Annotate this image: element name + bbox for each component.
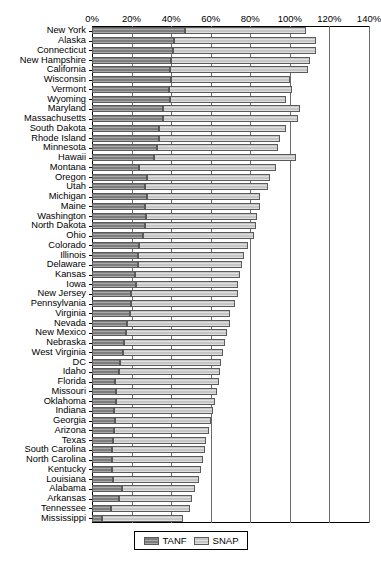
bar-segment-snap [170,96,286,103]
bar-segment-tanf [92,359,120,366]
bar-segment-snap [131,290,239,297]
bar-segment-tanf [92,427,114,434]
bar-segment-tanf [92,232,143,239]
bar-segment-tanf [92,174,147,181]
bar-segment-snap [113,437,206,444]
legend-label-snap: SNAP [213,536,239,546]
bar-segment-tanf [92,96,170,103]
bar-segment-snap [138,261,243,268]
bar-segment-tanf [92,222,145,229]
legend-entry-tanf: TANF [144,536,187,546]
y-tick-label: Maine [61,202,86,212]
bar-segment-snap [163,115,298,122]
legend-swatch-snap [194,537,209,545]
x-tick-label: 60% [201,13,220,25]
bar-segment-tanf [92,329,126,336]
bar-segment-tanf [92,320,127,327]
bar-segment-snap [170,66,308,73]
bar-segment-snap [139,164,276,171]
bar-segment-tanf [92,105,163,112]
bar-segment-tanf [92,213,146,220]
bar-segment-snap [163,105,300,112]
gridline [369,26,370,523]
bar-segment-tanf [92,47,173,54]
bar-segment-tanf [92,271,135,278]
bar-segment-tanf [92,378,115,385]
bar-segment-snap [131,300,236,307]
legend-swatch-tanf [144,537,159,545]
bar-segment-snap [135,271,241,278]
bar-segment-tanf [92,115,163,122]
bar-segment-snap [126,329,227,336]
bar-segment-snap [111,505,190,512]
bar-segment-tanf [92,290,131,297]
y-tick-label: Connecticut [37,46,86,56]
x-tick-label: 0% [85,13,99,25]
bar-segment-tanf [92,144,157,151]
bar-segment-snap [123,349,223,356]
chart-legend: TANF SNAP [134,531,248,550]
bar-segment-snap [114,407,213,414]
bar-segment-snap [174,37,315,44]
bar-segment-tanf [92,37,174,44]
y-tick-label: South Dakota [30,124,86,134]
bar-segment-snap [115,417,211,424]
bar-segment-tanf [92,476,113,483]
bar-segment-tanf [92,252,138,259]
bar-segment-tanf [92,300,131,307]
bar-segment-snap [147,193,260,200]
bar-segment-tanf [92,242,139,249]
bar-segment-snap [159,125,286,132]
bar-segment-tanf [92,456,112,463]
bar-segment-snap [102,515,183,522]
bar-segment-tanf [92,135,159,142]
bar-segment-tanf [92,466,112,473]
bar-segment-snap [119,495,192,502]
bar-segment-snap [145,183,268,190]
bar-segment-snap [171,57,310,64]
bar-segment-tanf [92,154,154,161]
bar-segment-tanf [92,505,111,512]
bar-segment-tanf [92,398,116,405]
x-tick-label: 20% [122,13,141,25]
bar-segment-snap [112,456,203,463]
y-tick-label: Montana [50,163,86,173]
y-tick-label: Colorado [48,241,86,251]
bar-segment-snap [124,339,225,346]
bar-segment-tanf [92,86,169,93]
legend-entry-snap: SNAP [194,536,239,546]
bar-segment-tanf [92,281,136,288]
bar-segment-snap [159,135,280,142]
bar-segment-snap [116,398,215,405]
bar-segment-snap [112,466,201,473]
x-tick-label: 120% [317,13,341,25]
bar-segment-tanf [92,261,138,268]
bar-segment-snap [138,252,245,259]
plot-area [92,26,369,523]
bar-segment-snap [147,174,270,181]
x-tick-label: 140% [357,13,381,25]
bar-segment-tanf [92,66,170,73]
bar-segment-snap [122,485,195,492]
y-tick-label: Vermont [51,85,86,95]
x-axis-tick-labels: 0%20%40%60%80%100%120%140% [0,13,370,25]
x-tick-label: 80% [241,13,260,25]
bar-segment-tanf [92,125,159,132]
bar-segment-snap [171,76,290,83]
bar-segment-tanf [92,446,112,453]
bar-segment-tanf [92,310,130,317]
bar-segment-tanf [92,183,145,190]
bar-segment-snap [115,378,219,385]
bar-segment-snap [127,320,230,327]
y-tick-label: Mississippi [41,514,86,524]
bar-segment-tanf [92,27,185,34]
legend-label-tanf: TANF [163,536,187,546]
bar-segment-snap [157,144,278,151]
bar-segment-snap [120,359,221,366]
bar-segment-tanf [92,485,122,492]
x-tick-label: 40% [162,13,181,25]
bar-segment-snap [112,446,205,453]
bar-segment-tanf [92,407,114,414]
bar-segment-snap [136,281,239,288]
